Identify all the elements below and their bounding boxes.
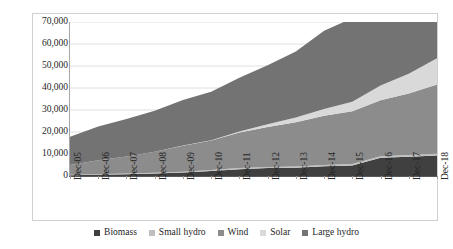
y-axis-tick-label: 40,000 bbox=[6, 83, 68, 93]
legend-swatch-icon bbox=[260, 230, 266, 236]
y-axis-tick-label: 10,000 bbox=[6, 149, 68, 159]
x-axis-tick-text: Dec-13 bbox=[300, 152, 310, 180]
x-axis-tick-label: Dec-06 bbox=[91, 178, 105, 218]
x-axis: Dec-05Dec-06Dec-07Dec-08Dec-09Dec-10Dec-… bbox=[70, 178, 437, 220]
x-axis-tick-mark bbox=[352, 176, 353, 179]
chart-container: 70,00060,00050,00040,00030,00020,00010,0… bbox=[0, 0, 453, 249]
x-axis-tick-mark bbox=[98, 176, 99, 179]
x-axis-tick-label: Dec-07 bbox=[119, 178, 133, 218]
legend-label: Wind bbox=[228, 228, 249, 238]
x-axis-tick-text: Dec-09 bbox=[187, 152, 197, 180]
legend-swatch-icon bbox=[94, 230, 100, 236]
x-axis-tick-label: Dec-09 bbox=[176, 178, 190, 218]
x-axis-tick-mark bbox=[437, 176, 438, 179]
x-axis-tick-text: Dec-05 bbox=[74, 152, 84, 180]
x-axis-tick-label: Dec-17 bbox=[402, 178, 416, 218]
x-axis-tick-mark bbox=[183, 176, 184, 179]
legend-swatch-icon bbox=[149, 230, 155, 236]
x-axis-tick-mark bbox=[268, 176, 269, 179]
x-axis-tick-mark bbox=[324, 176, 325, 179]
x-axis-tick-text: Dec-12 bbox=[272, 152, 282, 180]
legend-label: Small hydro bbox=[159, 228, 206, 238]
x-axis-tick-text: Dec-11 bbox=[243, 152, 253, 180]
x-axis-tick-label: Dec-16 bbox=[374, 178, 388, 218]
legend-item-wind[interactable]: Wind bbox=[218, 228, 249, 238]
x-axis-tick-label: Dec-18 bbox=[430, 178, 444, 218]
x-axis-tick-mark bbox=[239, 176, 240, 179]
legend-item-biomass[interactable]: Biomass bbox=[94, 228, 137, 238]
x-axis-tick-text: Dec-08 bbox=[159, 152, 169, 180]
x-axis-line bbox=[69, 176, 437, 177]
x-axis-tick-label: Dec-11 bbox=[232, 178, 246, 218]
x-axis-tick-label: Dec-15 bbox=[345, 178, 359, 218]
x-axis-tick-label: Dec-14 bbox=[317, 178, 331, 218]
x-axis-tick-mark bbox=[381, 176, 382, 179]
legend-label: Large hydro bbox=[312, 228, 359, 238]
y-axis-tick-label: 0 bbox=[6, 171, 68, 181]
legend-label: Solar bbox=[270, 228, 290, 238]
x-axis-tick-text: Dec-15 bbox=[356, 152, 366, 180]
x-axis-tick-label: Dec-08 bbox=[148, 178, 162, 218]
x-axis-tick-mark bbox=[296, 176, 297, 179]
x-axis-tick-label: Dec-10 bbox=[204, 178, 218, 218]
y-axis: 70,00060,00050,00040,00030,00020,00010,0… bbox=[0, 0, 68, 176]
x-axis-tick-mark bbox=[211, 176, 212, 179]
x-axis-tick-text: Dec-10 bbox=[215, 152, 225, 180]
legend-label: Biomass bbox=[104, 228, 137, 238]
chart-legend: BiomassSmall hydroWindSolarLarge hydro bbox=[0, 228, 453, 238]
x-axis-tick-text: Dec-06 bbox=[102, 152, 112, 180]
x-axis-tick-label: Dec-13 bbox=[289, 178, 303, 218]
x-axis-tick-text: Dec-17 bbox=[413, 152, 423, 180]
plot-area bbox=[70, 22, 437, 176]
y-axis-tick-label: 20,000 bbox=[6, 127, 68, 137]
x-axis-tick-label: Dec-12 bbox=[261, 178, 275, 218]
legend-item-large-hydro[interactable]: Large hydro bbox=[302, 228, 359, 238]
x-axis-tick-mark bbox=[126, 176, 127, 179]
x-axis-tick-mark bbox=[409, 176, 410, 179]
legend-item-solar[interactable]: Solar bbox=[260, 228, 290, 238]
y-axis-tick-label: 60,000 bbox=[6, 39, 68, 49]
x-axis-tick-text: Dec-18 bbox=[441, 152, 451, 180]
x-axis-tick-text: Dec-07 bbox=[130, 152, 140, 180]
x-axis-tick-mark bbox=[155, 176, 156, 179]
legend-swatch-icon bbox=[218, 230, 224, 236]
y-axis-tick-label: 50,000 bbox=[6, 61, 68, 71]
legend-item-small-hydro[interactable]: Small hydro bbox=[149, 228, 206, 238]
legend-swatch-icon bbox=[302, 230, 308, 236]
x-axis-tick-text: Dec-16 bbox=[385, 152, 395, 180]
x-axis-tick-label: Dec-05 bbox=[63, 178, 77, 218]
y-axis-tick-label: 70,000 bbox=[6, 17, 68, 27]
stacked-area-plot bbox=[70, 22, 437, 176]
x-axis-tick-mark bbox=[70, 176, 71, 179]
y-axis-tick-label: 30,000 bbox=[6, 105, 68, 115]
x-axis-tick-text: Dec-14 bbox=[328, 152, 338, 180]
